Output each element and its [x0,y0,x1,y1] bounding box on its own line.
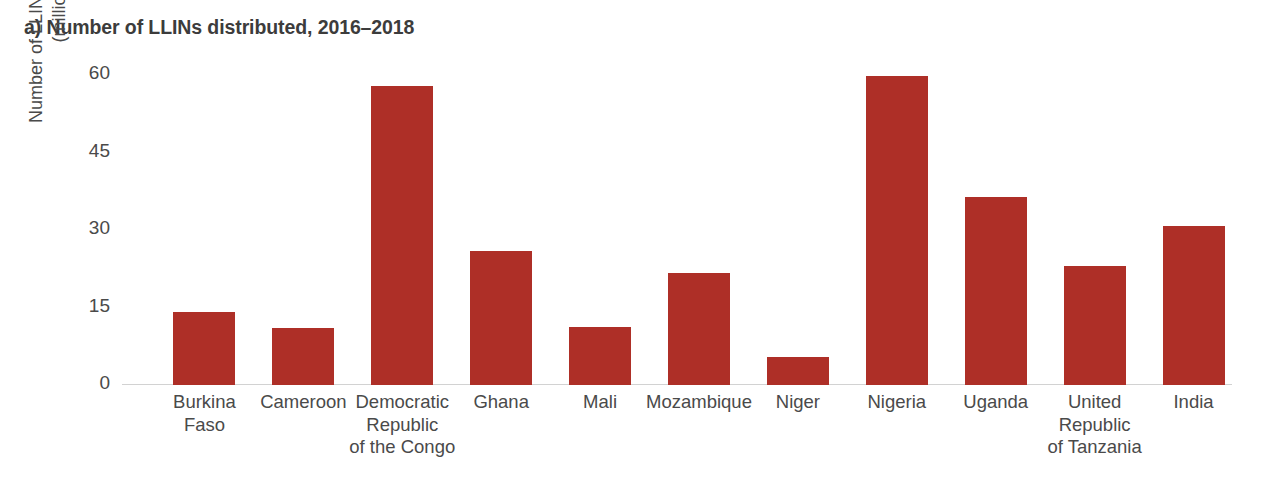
x-axis-category-label-line: of the Congo [336,436,468,459]
bar[interactable] [1163,226,1225,385]
bar[interactable] [470,251,532,385]
bar[interactable] [965,197,1027,385]
bar[interactable] [272,328,334,385]
x-axis-category-label-line: Republic [336,414,468,437]
plot-area: 015304560 [122,75,1232,385]
x-axis-category-label-line: of Tanzania [1029,436,1161,459]
bar[interactable] [668,273,730,385]
y-axis-tick-label: 15 [89,295,110,317]
figure-panel-a: a) Number of LLINs distributed, 2016–201… [0,0,1273,477]
x-axis-category-label-line: Republic [1029,414,1161,437]
y-axis-tick-label: 0 [99,372,110,394]
x-axis-category-label-line: Faso [138,414,270,437]
bar[interactable] [371,86,433,385]
x-axis-category-label: India [1128,391,1260,414]
bar[interactable] [1064,266,1126,385]
y-axis-tick-label: 30 [89,217,110,239]
bar[interactable] [767,357,829,385]
y-axis-tick-label: 60 [89,62,110,84]
bar[interactable] [173,312,235,385]
bar[interactable] [866,76,928,385]
chart-title: a) Number of LLINs distributed, 2016–201… [24,16,414,39]
bar-series [122,75,1232,385]
x-axis-category-label-line: India [1128,391,1260,414]
bar[interactable] [569,327,631,385]
y-axis-tick-label: 45 [89,140,110,162]
x-axis-category-labels: BurkinaFasoCameroonDemocraticRepublicof … [122,391,1232,477]
